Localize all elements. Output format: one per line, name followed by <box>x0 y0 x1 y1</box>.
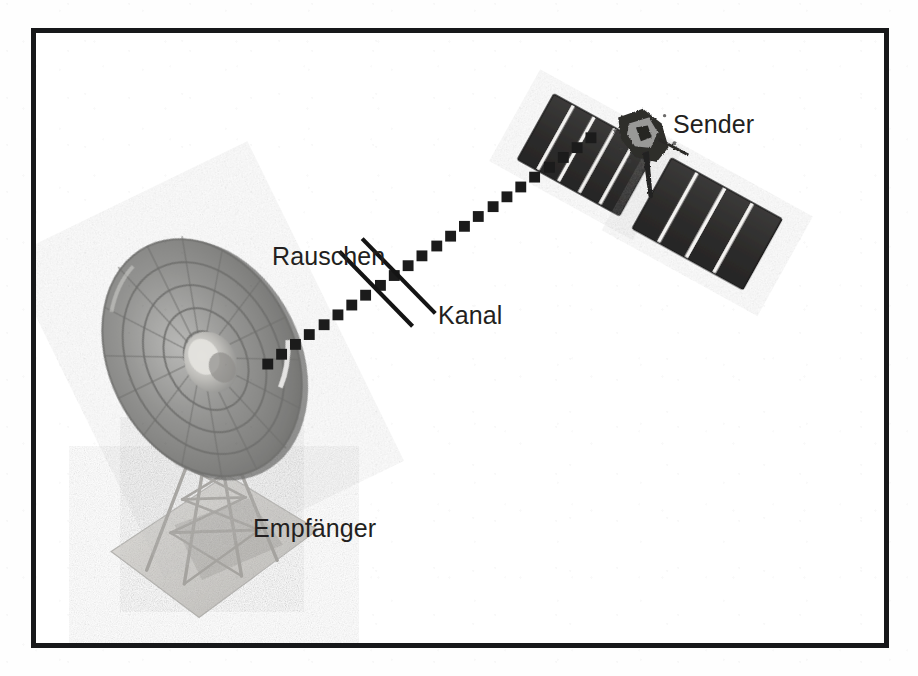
label-rauschen: Rauschen <box>272 244 385 269</box>
channel-and-noise-layer <box>36 33 884 643</box>
label-empfaenger: Empfänger <box>253 516 376 541</box>
label-sender: Sender <box>673 112 754 137</box>
figure-frame: Sender Rauschen Kanal Empfänger <box>31 28 889 648</box>
figure-page: Sender Rauschen Kanal Empfänger <box>0 0 918 676</box>
figure-canvas: Sender Rauschen Kanal Empfänger <box>36 33 884 643</box>
label-kanal: Kanal <box>438 303 502 328</box>
